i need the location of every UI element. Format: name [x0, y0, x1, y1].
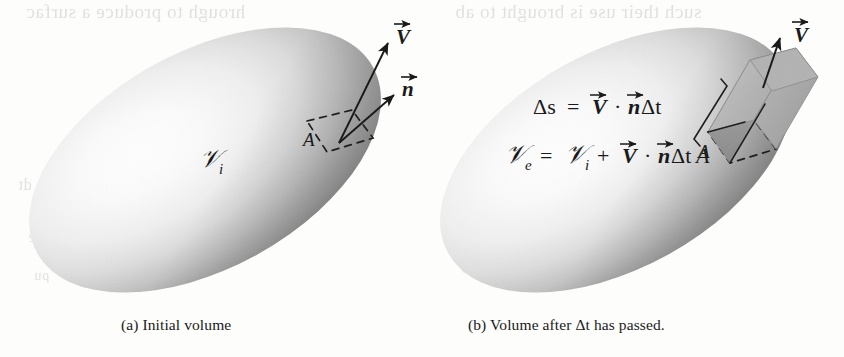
eq2-area: A	[694, 143, 710, 168]
eq2-velocity: V	[622, 143, 639, 168]
eq1-delta-t: Δt	[641, 94, 661, 119]
eq1-normal: n	[628, 94, 640, 119]
control-volume-ellipsoid-a	[0, 0, 425, 348]
figure-container: hrough to produce a surfac such their us…	[0, 0, 844, 357]
velocity-label-b-text: V	[794, 23, 810, 47]
equation-displacement: Δs = V · n Δt	[533, 94, 661, 119]
eq2-normal: n	[658, 143, 670, 168]
eq1-delta-s: Δs	[533, 94, 556, 119]
velocity-label-a-text: V	[396, 25, 412, 49]
panel-b: V A Δs = V · n Δt 𝒱 e = 𝒱 i	[396, 0, 837, 348]
panel-b-caption: (b) Volume after Δt has passed.	[468, 316, 665, 334]
eq1-dot: ·	[614, 94, 621, 119]
area-label-a: A	[301, 129, 315, 150]
eq1-equals: =	[567, 94, 579, 119]
panel-a-caption: (a) Initial volume	[121, 316, 231, 334]
eq2-volume-i-sub: i	[585, 157, 589, 173]
eq1-velocity: V	[592, 94, 609, 119]
figure-canvas: V n A 𝒱 i	[0, 0, 844, 357]
eq2-volume-e-sub: e	[525, 157, 532, 173]
eq2-equals: =	[540, 143, 552, 168]
normal-label-a-text: n	[402, 77, 414, 101]
eq2-dot: ·	[644, 143, 651, 168]
eq2-delta-t: Δt	[671, 143, 691, 168]
velocity-label-a: V	[394, 24, 412, 49]
eq2-plus: +	[597, 143, 609, 168]
velocity-label-b: V	[792, 22, 810, 47]
normal-label-a: n	[401, 77, 417, 101]
control-volume-ellipsoid-b	[396, 0, 837, 348]
panel-a: V n A 𝒱 i	[0, 0, 425, 348]
initial-volume-subscript: i	[219, 161, 223, 177]
